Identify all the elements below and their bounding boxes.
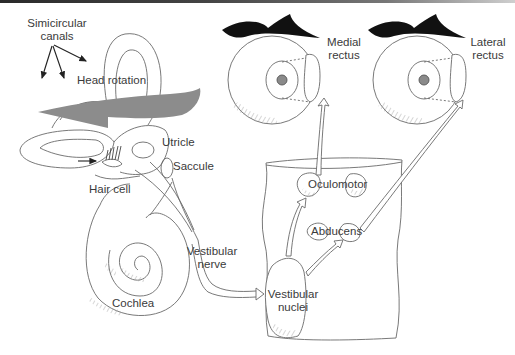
abducens-label: Abducens bbox=[311, 225, 362, 238]
label-line: Simicircular bbox=[22, 17, 92, 30]
oculomotor-to-medial-rectus-arrow bbox=[316, 98, 329, 175]
label-line: Lateral bbox=[466, 36, 510, 49]
nuclei-to-oculomotor-arrow bbox=[286, 198, 306, 256]
hair-cell-label: Hair cell bbox=[89, 183, 131, 196]
label-line: canals bbox=[22, 30, 92, 43]
label-line: nerve bbox=[180, 258, 244, 271]
label-line: nuclei bbox=[266, 301, 320, 314]
left-pupil bbox=[277, 75, 287, 85]
label-line: Vestibular bbox=[266, 288, 320, 301]
utricle-label: Utricle bbox=[162, 136, 195, 149]
head-rotation-arrow bbox=[38, 88, 200, 128]
nuclei-to-abducens-arrow bbox=[306, 240, 343, 276]
lateral-rectus-muscle bbox=[450, 54, 466, 102]
saccule-label: Saccule bbox=[173, 160, 214, 173]
right-eyebrow bbox=[368, 14, 466, 38]
label-line: rectus bbox=[322, 49, 366, 62]
medial-rectus-label: Medial rectus bbox=[322, 36, 366, 62]
head-rotation-label: Head rotation bbox=[77, 74, 146, 87]
left-eyebrow bbox=[222, 14, 320, 38]
label-line: Medial bbox=[322, 36, 366, 49]
medial-rectus-muscle bbox=[304, 54, 320, 102]
nerve-to-nuclei-arrow bbox=[256, 288, 264, 300]
lateral-rectus-label: Lateral rectus bbox=[466, 36, 510, 62]
right-pupil bbox=[419, 75, 429, 85]
vestibular-nuclei-label: Vestibular nuclei bbox=[266, 288, 320, 314]
semicircular-canals-label: Simicircular canals bbox=[22, 17, 92, 43]
hair-cell-bristles bbox=[106, 146, 121, 160]
vestibular-nerve-label: Vestibular nerve bbox=[180, 245, 244, 271]
oculomotor-label: Oculomotor bbox=[308, 178, 367, 191]
label-line: rectus bbox=[466, 49, 510, 62]
label-line: Vestibular bbox=[180, 245, 244, 258]
cochlea-label: Cochlea bbox=[112, 297, 154, 310]
vor-diagram bbox=[0, 0, 515, 355]
